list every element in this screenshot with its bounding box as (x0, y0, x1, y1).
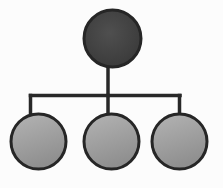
diagram-canvas (0, 0, 223, 188)
node-child-3-circle (152, 114, 207, 169)
hierarchy-diagram (0, 0, 223, 188)
node-child-2-circle (84, 114, 139, 169)
node-parent-circle (84, 10, 141, 67)
node-child-1-circle (11, 114, 66, 169)
